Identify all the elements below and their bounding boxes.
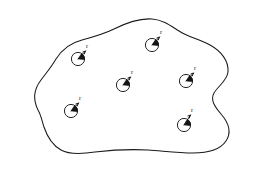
figure-container: rrrrrr (0, 0, 256, 171)
marker-radius-label: r (79, 94, 81, 101)
region-diagram: rrrrrr (0, 0, 256, 171)
marker-radius-label: r (86, 42, 88, 49)
marker-radius-label: r (131, 68, 133, 75)
marker-radius-label: r (191, 106, 193, 113)
marker-radius-label: r (194, 64, 196, 71)
marker-radius-label: r (160, 28, 162, 35)
